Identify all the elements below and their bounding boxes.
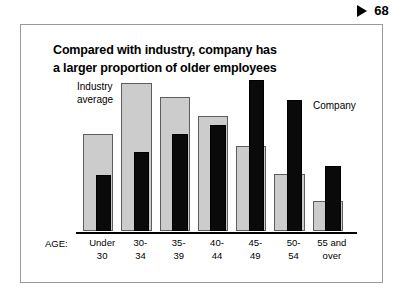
axis-tick-label: 55 andover: [313, 237, 351, 262]
x-axis-labels: AGE: Under3030-3435-3940-4445-4950-5455 …: [83, 237, 351, 277]
axis-tick-label-line-1: Under: [83, 237, 121, 250]
title-line-1: Compared with industry, company has: [53, 42, 363, 60]
triangle-right-icon: [357, 5, 367, 17]
axis-tick-label-line-1: 50-: [274, 237, 312, 250]
axis-tick-label-line-1: 45-: [236, 237, 274, 250]
bar-group: [83, 80, 121, 231]
axis-tick-label-line-2: over: [313, 250, 351, 263]
slide-frame: Compared with industry, company has a la…: [20, 24, 383, 283]
bar-group: [160, 80, 198, 231]
axis-tick-label: 40-44: [198, 237, 236, 262]
axis-tick-label-line-2: 34: [121, 250, 159, 263]
axis-tick-label: 45-49: [236, 237, 274, 262]
axis-title: AGE:: [45, 238, 68, 249]
bar-company: [210, 125, 225, 231]
bar-company: [96, 175, 111, 231]
bar-chart-plot: [83, 80, 351, 231]
axis-tick-label: 35-39: [160, 237, 198, 262]
bar-group: [121, 80, 159, 231]
slide-root: 68 Compared with industry, company has a…: [0, 0, 407, 300]
bar-group: [274, 80, 312, 231]
title-line-2: a larger proportion of older employees: [53, 60, 363, 78]
page-marker: 68: [357, 4, 389, 17]
axis-tick-label-line-1: 30-: [121, 237, 159, 250]
axis-tick-label: 30-34: [121, 237, 159, 262]
bar-company: [134, 152, 149, 231]
axis-tick-label-line-2: 39: [160, 250, 198, 263]
axis-tick-label-line-2: 49: [236, 250, 274, 263]
bar-group: [313, 80, 351, 231]
bar-company: [249, 80, 264, 231]
page-title: Compared with industry, company has a la…: [53, 42, 363, 78]
bar-company: [325, 166, 340, 231]
axis-tick-label-line-1: 35-: [160, 237, 198, 250]
axis-tick-label: Under30: [83, 237, 121, 262]
bar-group: [198, 80, 236, 231]
axis-tick-label: 50-54: [274, 237, 312, 262]
axis-tick-label-line-2: 44: [198, 250, 236, 263]
axis-tick-label-line-2: 30: [83, 250, 121, 263]
page-number: 68: [374, 4, 389, 17]
axis-tick-label-line-1: 55 and: [313, 237, 351, 250]
axis-tick-label-line-2: 54: [274, 250, 312, 263]
bar-company: [172, 134, 187, 231]
axis-tick-label-line-1: 40-: [198, 237, 236, 250]
bar-group: [236, 80, 274, 231]
bar-company: [287, 100, 302, 231]
x-axis-line: [76, 232, 357, 234]
